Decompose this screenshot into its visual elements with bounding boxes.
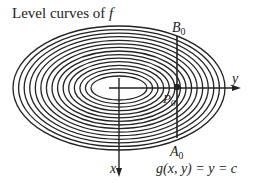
- label-x-axis: x: [110, 162, 116, 176]
- level-curves-figure: [0, 0, 253, 183]
- x-axis-arrow: [116, 168, 122, 177]
- point-p0: [174, 84, 180, 90]
- title: Level curves of f: [12, 6, 113, 21]
- label-p0: P0: [163, 92, 176, 108]
- p-letter: P: [163, 91, 171, 106]
- b-letter: B: [172, 20, 181, 35]
- label-b0: B0: [172, 21, 185, 37]
- label-a0: A0: [170, 145, 183, 161]
- title-func: f: [109, 5, 113, 21]
- diagram: Level curves of f B0 y P0 A0 x g(x, y) =…: [0, 0, 253, 183]
- a-sub: 0: [179, 150, 184, 161]
- b-sub: 0: [181, 26, 186, 37]
- p-sub: 0: [171, 98, 176, 108]
- title-text: Level curves of: [12, 5, 109, 21]
- a-letter: A: [170, 144, 179, 159]
- label-y-axis: y: [232, 72, 238, 86]
- equation-label: g(x, y) = y = c: [156, 162, 237, 176]
